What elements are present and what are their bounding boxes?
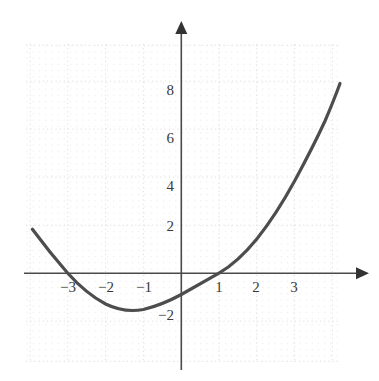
x-axis-arrow-icon <box>356 267 369 279</box>
y-tick-label-8: 8 <box>146 82 174 99</box>
x-tick-label-1: 1 <box>208 279 230 296</box>
x-tick-label-2: 2 <box>245 279 267 296</box>
y-tick-label-6: 6 <box>146 130 174 147</box>
y-tick-label-2: 2 <box>146 218 174 235</box>
x-tick-label-neg2: −2 <box>92 279 120 296</box>
x-tick-label-3: 3 <box>283 279 305 296</box>
y-axis-arrow-icon <box>175 21 187 34</box>
x-tick-label-neg1: −1 <box>130 279 158 296</box>
x-tick-label-neg3: −3 <box>54 279 82 296</box>
y-tick-label-4: 4 <box>146 178 174 195</box>
parabola-graph-figure: −3 −2 −1 1 2 3 8 6 4 2 −2 <box>0 0 379 381</box>
graph-canvas <box>0 0 379 381</box>
y-tick-label-neg2: −2 <box>142 307 174 324</box>
